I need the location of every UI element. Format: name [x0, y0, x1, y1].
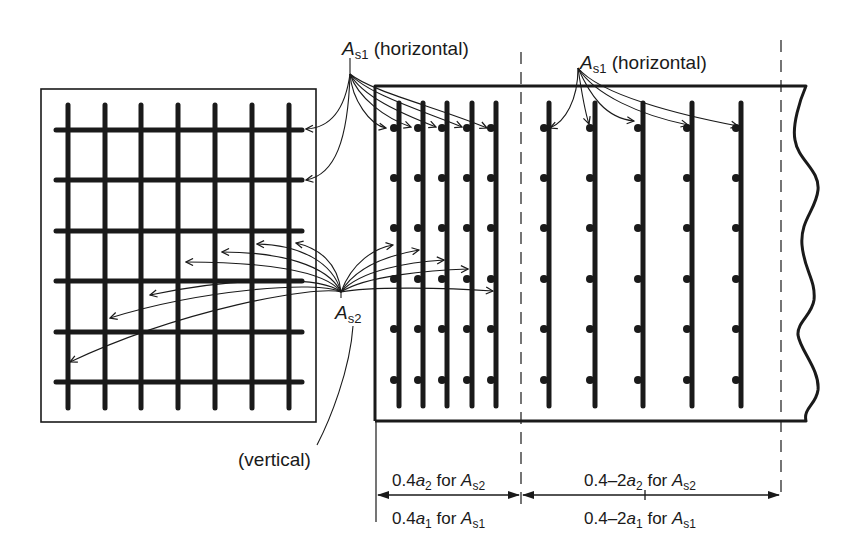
dim-label-left-upper: 0.4a2 for As2 [392, 471, 485, 493]
section-panel [375, 86, 818, 421]
diagram-canvas: As1 (horizontal) As1 (horizontal) As2 (v… [0, 0, 864, 555]
dim-label-right-upper: 0.4–2a2 for As2 [584, 471, 696, 493]
section-dense-bars [399, 103, 496, 406]
dim-label-right-lower: 0.4–2a1 for As1 [584, 509, 696, 531]
as1-label-left: As1 (horizontal) [341, 38, 469, 62]
section-sparse-bars [549, 103, 741, 406]
mesh-panel [41, 89, 316, 422]
as2-label: As2 [334, 302, 361, 326]
vertical-label-leader [317, 326, 353, 445]
dots-dense [390, 124, 495, 384]
dim-label-left-lower: 0.4a1 for As1 [392, 509, 485, 531]
as1-label-right: As1 (horizontal) [579, 52, 707, 76]
mesh-vertical-bars [68, 105, 289, 408]
section-bar-dots [390, 124, 740, 384]
reinforcement-diagram: As1 (horizontal) As1 (horizontal) As2 (v… [0, 0, 864, 555]
dots-sparse [540, 124, 740, 384]
dimension-lines [378, 490, 779, 500]
as2-leader-fan [70, 243, 493, 362]
vertical-label: (vertical) [238, 449, 311, 470]
